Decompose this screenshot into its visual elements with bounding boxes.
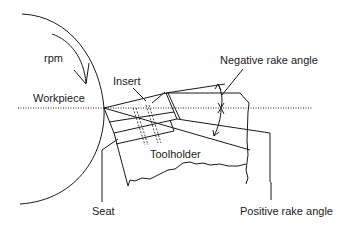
negative-rake-leader	[222, 69, 243, 95]
toolholder	[114, 84, 270, 186]
rake-angle-diagram: rpm Workpiece Insert Negative rake angle…	[0, 0, 337, 227]
positive-rake-label: Positive rake angle	[240, 205, 333, 217]
insert-label: Insert	[113, 75, 141, 87]
seat-leader	[102, 139, 118, 150]
negative-rake-label: Negative rake angle	[220, 54, 318, 66]
workpiece-outline	[20, 14, 104, 204]
rpm-label: rpm	[44, 52, 63, 64]
seat-label: Seat	[92, 205, 115, 217]
toolholder-label: Toolholder	[150, 148, 201, 160]
rake-angle-dimension	[213, 84, 224, 136]
workpiece-label: Workpiece	[33, 92, 85, 104]
